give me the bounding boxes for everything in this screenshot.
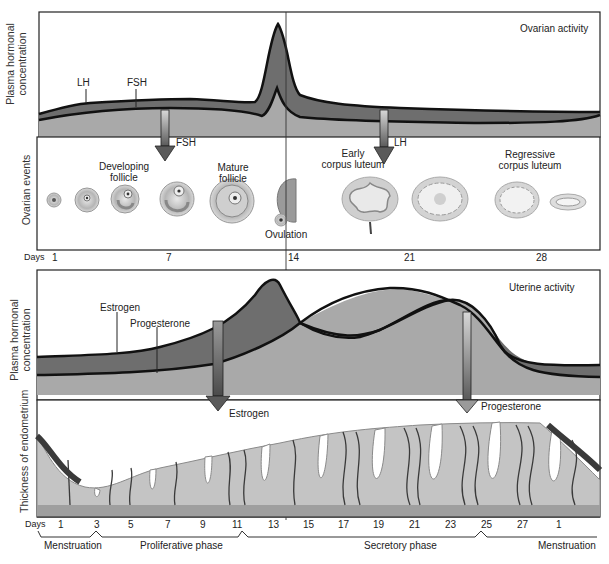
day-tick-bottom: 17	[338, 519, 349, 530]
day-tick-bottom: 1	[58, 519, 64, 530]
progesterone-label: Progesterone	[130, 318, 190, 329]
mature-follicle-label: Maturefollicle	[208, 162, 258, 184]
day-tick-bottom: 23	[445, 519, 456, 530]
lh-arrow-label: LH	[394, 137, 407, 148]
ovarian-activity-title: Ovarian activity	[520, 23, 588, 34]
day-tick-bottom: 3	[94, 519, 100, 530]
day-tick-top: 28	[536, 252, 547, 263]
day-tick-bottom: 15	[303, 519, 314, 530]
day-tick-bottom: 11	[232, 519, 242, 530]
day-tick-bottom: 27	[517, 519, 528, 530]
phase-menstruation-2: Menstruation	[538, 540, 596, 551]
phase-braces	[38, 531, 597, 537]
bottom-y-axis-label: Plasma hormonal concentration	[8, 285, 32, 395]
day-tick-bottom: 25	[481, 519, 492, 530]
lh-label: LH	[77, 77, 90, 88]
day-tick-bottom: 1	[556, 519, 562, 530]
endometrium-panel	[37, 400, 600, 517]
phase-menstruation-1: Menstruation	[44, 540, 102, 551]
fsh-label: FSH	[127, 77, 147, 88]
day-tick-bottom: 9	[200, 519, 206, 530]
ovulation-label: Ovulation	[265, 229, 307, 240]
top-y-axis-label: Plasma hormonal concentration	[4, 9, 28, 119]
progesterone-arrow-label: Progesterone	[481, 401, 541, 412]
day-tick-bottom: 13	[268, 519, 279, 530]
endometrium-axis-label: Thickness of endometrium	[18, 403, 30, 513]
day-tick-top: 21	[404, 252, 415, 263]
day-tick-bottom: 19	[373, 519, 384, 530]
early-corpus-luteum-label: Earlycorpus luteum	[313, 148, 393, 170]
day-tick-bottom: 21	[409, 519, 420, 530]
fsh-arrow-label: FSH	[176, 137, 196, 148]
ovarian-events-axis-label: Ovarian events	[20, 150, 32, 230]
day-tick-bottom: 5	[128, 519, 134, 530]
day-tick-top: 14	[288, 252, 299, 263]
days-axis-bottom-label: Days	[25, 519, 46, 529]
phase-proliferative: Proliferative phase	[140, 540, 223, 551]
ovarian-activity-chart	[39, 12, 600, 137]
days-axis-top-label: Days	[24, 252, 45, 262]
developing-follicle-label: Developingfollicle	[84, 161, 164, 183]
day-tick-top: 1	[52, 252, 58, 263]
uterine-activity-title: Uterine activity	[509, 282, 575, 293]
day-tick-bottom: 7	[165, 519, 171, 530]
estrogen-arrow-label: Estrogen	[229, 408, 269, 419]
day-tick-top: 7	[166, 252, 172, 263]
phase-secretory: Secretory phase	[364, 540, 437, 551]
estrogen-label: Estrogen	[100, 302, 140, 313]
regressive-corpus-luteum-label: Regressivecorpus luteum	[490, 149, 570, 171]
